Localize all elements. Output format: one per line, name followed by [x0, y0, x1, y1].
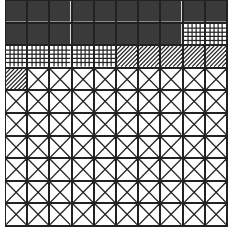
waffle-cell-cross — [161, 182, 183, 205]
waffle-cell-solid — [6, 24, 28, 47]
waffle-cell-cross — [184, 204, 206, 227]
waffle-cell-cross — [206, 114, 228, 137]
waffle-cell-cross — [95, 204, 117, 227]
waffle-cell-cross — [95, 114, 117, 137]
waffle-cell-cross — [206, 182, 228, 205]
waffle-cell-solid — [50, 1, 72, 24]
waffle-cell-cross — [28, 69, 50, 92]
waffle-cell-cross — [139, 114, 161, 137]
waffle-cell-cross — [206, 159, 228, 182]
waffle-cell-cross — [50, 69, 72, 92]
waffle-cell-solid — [73, 24, 95, 47]
waffle-cell-cross — [6, 204, 28, 227]
waffle-cell-cross — [28, 182, 50, 205]
waffle-cell-cross — [73, 182, 95, 205]
waffle-cell-cross — [139, 137, 161, 160]
waffle-cell-cross — [73, 204, 95, 227]
waffle-cell-cross — [184, 182, 206, 205]
waffle-cell-solid — [139, 24, 161, 47]
waffle-cell-cross — [6, 137, 28, 160]
waffle-cell-cross — [139, 204, 161, 227]
waffle-cell-grid — [6, 46, 28, 69]
waffle-cell-cross — [28, 114, 50, 137]
waffle-cell-cross — [184, 159, 206, 182]
waffle-cell-solid — [184, 1, 206, 24]
waffle-cell-cross — [73, 137, 95, 160]
waffle-cell-cross — [28, 91, 50, 114]
waffle-cell-solid — [95, 1, 117, 24]
waffle-cell-cross — [184, 91, 206, 114]
waffle-cell-grid — [95, 46, 117, 69]
waffle-cell-cross — [95, 91, 117, 114]
waffle-cell-cross — [161, 137, 183, 160]
waffle-cell-solid — [50, 24, 72, 47]
waffle-cell-cross — [95, 69, 117, 92]
waffle-cell-cross — [95, 137, 117, 160]
waffle-cell-cross — [117, 91, 139, 114]
waffle-cell-cross — [50, 114, 72, 137]
waffle-cell-solid — [6, 1, 28, 24]
waffle-cell-cross — [73, 91, 95, 114]
waffle-cell-cross — [139, 182, 161, 205]
waffle-cell-cross — [6, 159, 28, 182]
waffle-cell-diagonal — [206, 46, 228, 69]
waffle-cell-cross — [117, 137, 139, 160]
waffle-cell-cross — [206, 91, 228, 114]
waffle-cell-solid — [28, 24, 50, 47]
waffle-cell-cross — [161, 159, 183, 182]
waffle-cell-cross — [50, 91, 72, 114]
waffle-cell-diagonal — [117, 46, 139, 69]
waffle-cell-cross — [6, 114, 28, 137]
waffle-cell-cross — [206, 69, 228, 92]
waffle-cell-solid — [206, 1, 228, 24]
waffle-cell-solid — [117, 1, 139, 24]
waffle-cell-diagonal — [161, 46, 183, 69]
waffle-cell-cross — [161, 91, 183, 114]
waffle-cell-cross — [73, 69, 95, 92]
waffle-cell-cross — [73, 114, 95, 137]
waffle-cell-cross — [206, 204, 228, 227]
waffle-cell-solid — [139, 1, 161, 24]
waffle-cell-cross — [6, 182, 28, 205]
waffle-cell-cross — [161, 204, 183, 227]
waffle-cell-diagonal — [139, 46, 161, 69]
waffle-cell-cross — [161, 114, 183, 137]
waffle-chart — [5, 0, 228, 227]
waffle-cell-cross — [50, 182, 72, 205]
waffle-cell-cross — [184, 69, 206, 92]
waffle-cell-cross — [117, 182, 139, 205]
waffle-cell-solid — [28, 1, 50, 24]
waffle-cell-diagonal — [6, 69, 28, 92]
waffle-cell-solid — [161, 1, 183, 24]
waffle-cell-cross — [184, 114, 206, 137]
waffle-cell-solid — [117, 24, 139, 47]
waffle-cell-cross — [50, 159, 72, 182]
waffle-cell-cross — [161, 69, 183, 92]
waffle-cell-cross — [28, 137, 50, 160]
waffle-cell-grid — [206, 24, 228, 47]
waffle-cell-solid — [73, 1, 95, 24]
waffle-cell-cross — [117, 204, 139, 227]
waffle-cell-solid — [95, 24, 117, 47]
waffle-cell-cross — [117, 114, 139, 137]
waffle-cell-cross — [28, 159, 50, 182]
waffle-cell-cross — [28, 204, 50, 227]
waffle-cell-cross — [117, 159, 139, 182]
waffle-cell-cross — [139, 159, 161, 182]
waffle-cell-cross — [6, 91, 28, 114]
waffle-cell-cross — [50, 204, 72, 227]
waffle-cell-grid — [28, 46, 50, 69]
waffle-cell-cross — [206, 137, 228, 160]
waffle-cell-grid — [50, 46, 72, 69]
waffle-cell-diagonal — [184, 46, 206, 69]
waffle-cell-cross — [95, 159, 117, 182]
waffle-cell-grid — [73, 46, 95, 69]
waffle-cell-cross — [139, 91, 161, 114]
waffle-cell-cross — [73, 159, 95, 182]
waffle-cell-grid — [184, 24, 206, 47]
waffle-cell-cross — [184, 137, 206, 160]
waffle-cell-solid — [161, 24, 183, 47]
waffle-cell-cross — [95, 182, 117, 205]
waffle-cell-cross — [117, 69, 139, 92]
waffle-cell-cross — [50, 137, 72, 160]
